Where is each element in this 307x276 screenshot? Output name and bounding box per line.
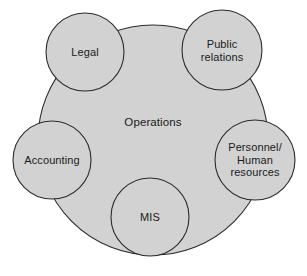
- mis-circle[interactable]: [111, 178, 189, 256]
- diagram-svg: [0, 0, 307, 276]
- accounting-circle[interactable]: [13, 121, 91, 199]
- legal-circle[interactable]: [46, 13, 124, 91]
- personnel-human-resources-circle[interactable]: [215, 120, 295, 200]
- public-relations-circle[interactable]: [182, 10, 262, 90]
- diagram-canvas: Operations Legal Public relations Person…: [0, 0, 307, 276]
